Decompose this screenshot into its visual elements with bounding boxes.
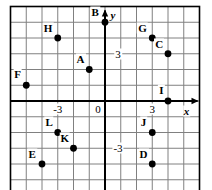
data-point-label-f: F — [13, 68, 22, 79]
data-point-j[interactable] — [149, 129, 156, 136]
data-point-label-h: H — [43, 23, 54, 34]
y-axis-tick-label: -3 — [112, 143, 123, 154]
x-axis-tick-label: 3 — [149, 104, 157, 115]
coordinate-grid-figure: -303-33xyABCDEFGHIJKL — [0, 0, 212, 190]
data-point-label-d: D — [139, 148, 149, 159]
data-point-f[interactable] — [23, 82, 30, 89]
x-axis-tick-label: -3 — [52, 104, 63, 115]
grid-plot-svg — [0, 0, 212, 190]
data-point-label-c: C — [154, 38, 164, 49]
data-point-h[interactable] — [54, 35, 61, 42]
data-point-label-g: G — [137, 23, 148, 34]
data-point-label-k: K — [60, 132, 71, 143]
data-point-b[interactable] — [102, 19, 109, 26]
y-axis-tick-label: 3 — [114, 48, 122, 59]
data-point-label-i: I — [158, 85, 164, 96]
y-axis-name-label: y — [110, 9, 117, 20]
data-point-label-e: E — [28, 149, 37, 160]
data-point-k[interactable] — [70, 145, 77, 152]
data-point-i[interactable] — [165, 98, 172, 105]
x-axis-origin-label: 0 — [94, 104, 102, 115]
data-point-label-b: B — [91, 7, 100, 18]
data-point-label-j: J — [140, 116, 148, 127]
data-point-e[interactable] — [39, 161, 46, 168]
data-point-label-l: L — [44, 116, 53, 127]
x-axis-name-label: x — [183, 106, 191, 117]
data-point-label-a: A — [76, 54, 86, 65]
data-point-a[interactable] — [86, 66, 93, 73]
data-point-c[interactable] — [165, 50, 172, 57]
data-point-d[interactable] — [149, 161, 156, 168]
